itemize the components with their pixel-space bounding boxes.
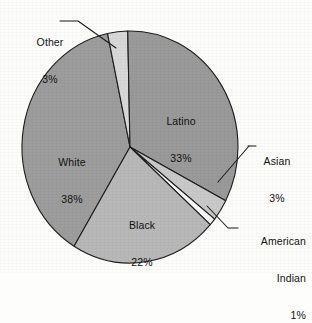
pie-label-american-indian: American Indian 1% <box>236 210 306 323</box>
pie-label-white-name: White <box>42 156 102 168</box>
pie-label-white-value: 38% <box>42 193 102 205</box>
pie-label-american-indian-value: 1% <box>236 309 306 321</box>
pie-label-black-name: Black <box>112 219 172 231</box>
pie-label-asian-name: Asian <box>250 155 304 167</box>
pie-label-american-indian-name2: Indian <box>236 272 306 284</box>
pie-label-white: White 38% <box>42 131 102 230</box>
pie-label-american-indian-name1: American <box>236 235 306 247</box>
pie-label-black: Black 22% <box>112 194 172 293</box>
pie-label-other-value: 3% <box>22 73 78 85</box>
pie-label-black-value: 22% <box>112 256 172 268</box>
pie-label-other-name: Other <box>22 36 78 48</box>
pie-label-latino-name: Latino <box>150 115 212 127</box>
pie-label-latino-value: 33% <box>150 152 212 164</box>
pie-label-latino: Latino 33% <box>150 90 212 189</box>
pie-label-other: Other 3% <box>22 11 78 110</box>
pie-label-asian-value: 3% <box>250 192 304 204</box>
